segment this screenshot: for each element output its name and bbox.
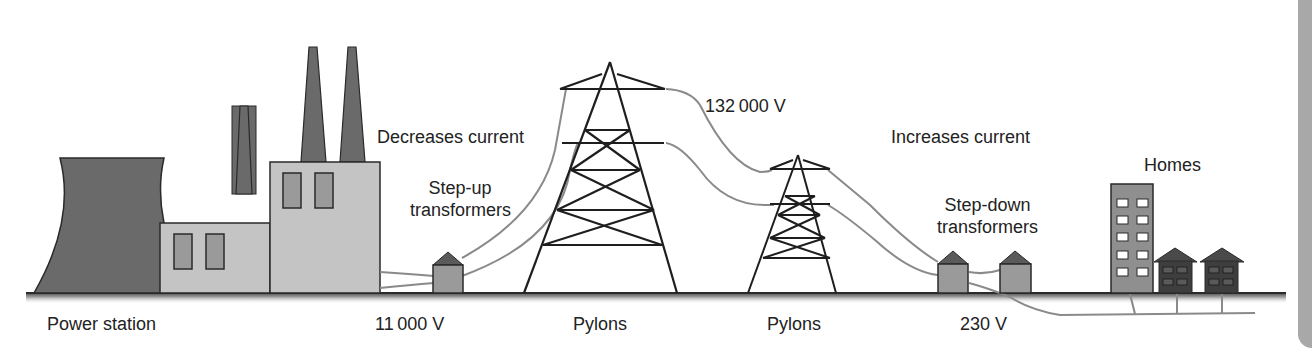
label-voltage-230: 230 V [960, 314, 1007, 335]
apartment-building-icon [1111, 184, 1153, 293]
label-step-down-line2: transformers [920, 217, 1055, 238]
ground [26, 292, 1286, 304]
factory-building-low [160, 106, 270, 293]
label-voltage-11000: 11 000 V [375, 314, 444, 335]
pylon-small-icon [748, 155, 836, 293]
power-transmission-diagram: Power station Decreases current Step-up … [0, 0, 1312, 348]
label-homes: Homes [1144, 155, 1201, 176]
label-step-up-line2: transformers [410, 200, 510, 221]
label-decreases-current: Decreases current [377, 127, 524, 148]
diagram-canvas [0, 0, 1312, 348]
factory-building-tall [270, 47, 380, 293]
step-down-transformer-icon-1 [938, 251, 968, 293]
label-voltage-132000: 132 000 V [705, 96, 786, 117]
page-frame-edge [1298, 0, 1312, 348]
label-step-up-line1: Step-up [410, 178, 510, 199]
house-icon-2 [1200, 248, 1244, 293]
label-power-station: Power station [47, 314, 156, 335]
label-step-down-line1: Step-down [920, 195, 1055, 216]
pylon-large-icon [524, 62, 677, 293]
label-increases-current: Increases current [891, 127, 1030, 148]
label-pylons-2: Pylons [767, 314, 821, 335]
step-up-transformer-icon [433, 252, 463, 293]
label-pylons-1: Pylons [573, 314, 627, 335]
step-down-transformer-icon-2 [1000, 251, 1031, 293]
house-icon-1 [1154, 248, 1197, 293]
